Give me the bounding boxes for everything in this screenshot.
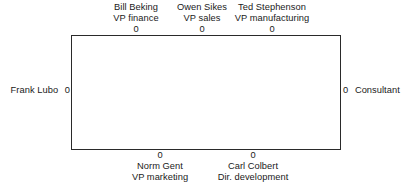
port-marker-icon[interactable]: 0 [217,24,327,35]
port-marker-icon[interactable]: 0 [198,150,308,161]
node-name: Ted Stephenson [217,2,327,13]
node-title: Dir. development [198,172,308,183]
port-marker-icon[interactable]: 0 [65,85,70,95]
node-consultant[interactable]: 0 Consultant [342,84,415,96]
node-frank-lubo[interactable]: Frank Lubo 0 [0,84,71,96]
node-title: VP marketing [110,172,210,183]
node-name: Carl Colbert [198,161,308,172]
node-name: Frank Lubo [11,85,59,95]
central-box[interactable] [71,35,341,150]
node-title: VP manufacturing [217,13,327,24]
node-name: Norm Gent [110,161,210,172]
boundary-diagram: Bill Beking VP finance 0 Owen Sikes VP s… [0,0,415,189]
port-marker-icon[interactable]: 0 [110,150,210,161]
node-carl-colbert[interactable]: 0 Carl Colbert Dir. development [198,150,308,183]
node-norm-gent[interactable]: 0 Norm Gent VP marketing [110,150,210,183]
node-ted-stephenson[interactable]: Ted Stephenson VP manufacturing 0 [217,2,327,35]
port-marker-icon[interactable]: 0 [343,85,348,95]
node-name: Consultant [355,85,400,95]
